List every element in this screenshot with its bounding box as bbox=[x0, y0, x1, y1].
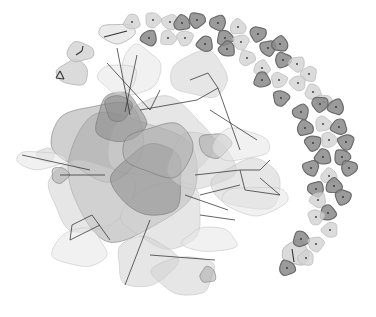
node-dot bbox=[342, 196, 344, 198]
node-dot bbox=[237, 26, 239, 28]
node-dot bbox=[257, 33, 259, 35]
node-dot bbox=[348, 167, 350, 169]
singleton-node-hull bbox=[146, 13, 162, 28]
network-graph bbox=[0, 0, 376, 317]
node-dot bbox=[341, 156, 343, 158]
node-dot bbox=[246, 57, 248, 59]
node-dot bbox=[226, 48, 228, 50]
singleton-node-hull bbox=[321, 222, 337, 237]
node-dot bbox=[148, 37, 150, 39]
node-dot bbox=[327, 212, 329, 214]
node-dot bbox=[304, 127, 306, 129]
node-dot bbox=[322, 123, 324, 125]
node-dot bbox=[297, 82, 299, 84]
node-dot bbox=[286, 267, 288, 269]
node-dot bbox=[345, 141, 347, 143]
node-dot bbox=[181, 22, 183, 24]
node-dot bbox=[296, 63, 298, 65]
node-dot bbox=[315, 188, 317, 190]
cluster-hull bbox=[212, 128, 269, 161]
node-dot bbox=[312, 91, 314, 93]
node-dot bbox=[196, 19, 198, 21]
node-dot bbox=[322, 156, 324, 158]
node-dot bbox=[329, 229, 331, 231]
node-dot bbox=[312, 142, 314, 144]
node-dot bbox=[310, 167, 312, 169]
node-dot bbox=[279, 43, 281, 45]
node-dot bbox=[131, 21, 133, 23]
node-dot bbox=[308, 73, 310, 75]
node-dot bbox=[300, 111, 302, 113]
node-dot bbox=[282, 59, 284, 61]
singleton-node-hull bbox=[316, 116, 332, 131]
node-dot bbox=[261, 79, 263, 81]
node-dot bbox=[305, 257, 307, 259]
node-dot bbox=[184, 37, 186, 39]
node-dot bbox=[152, 19, 154, 21]
node-dot bbox=[261, 67, 263, 69]
node-dot bbox=[333, 185, 335, 187]
node-dot bbox=[167, 37, 169, 39]
node-dot bbox=[300, 238, 302, 240]
node-dot bbox=[315, 243, 317, 245]
node-dot bbox=[338, 126, 340, 128]
node-dot bbox=[267, 47, 269, 49]
node-dot bbox=[280, 97, 282, 99]
node-dot bbox=[240, 41, 242, 43]
node-dot bbox=[169, 21, 171, 23]
node-dot bbox=[328, 139, 330, 141]
node-dot bbox=[315, 216, 317, 218]
singleton-node-hull bbox=[161, 30, 177, 45]
node-dot bbox=[335, 106, 337, 108]
network-graph-canvas bbox=[0, 0, 376, 317]
node-dot bbox=[317, 199, 319, 201]
node-dot bbox=[217, 22, 219, 24]
node-dot bbox=[319, 103, 321, 105]
singleton-node-hull bbox=[289, 57, 305, 72]
node-dot bbox=[278, 79, 280, 81]
node-dot bbox=[328, 175, 330, 177]
node-dot bbox=[204, 43, 206, 45]
singleton-node-hull bbox=[322, 132, 338, 147]
node-dot bbox=[224, 37, 226, 39]
edge bbox=[200, 215, 235, 220]
cluster-hulls bbox=[17, 44, 288, 295]
